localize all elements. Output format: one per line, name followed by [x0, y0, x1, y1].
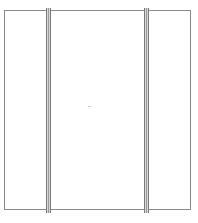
divider-line [50, 8, 51, 213]
right-divider [144, 8, 149, 213]
center-mark [88, 106, 91, 107]
left-panel [5, 11, 46, 209]
right-panel [151, 11, 191, 209]
divider-line [144, 8, 145, 213]
divider-line [46, 8, 47, 213]
divider-line [148, 8, 149, 213]
outer-frame [4, 10, 191, 210]
figure-caption [0, 215, 198, 223]
center-panel [52, 11, 145, 209]
divider-line [146, 8, 147, 213]
left-divider [46, 8, 51, 213]
divider-line [48, 8, 49, 213]
